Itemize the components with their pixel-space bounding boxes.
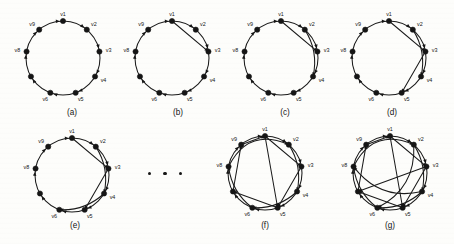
vertex-label-v5: v5	[87, 213, 93, 219]
vertex-v5	[399, 90, 404, 95]
vertex-v1	[60, 18, 65, 23]
vertex-v5	[82, 207, 87, 212]
cycle-rim	[35, 138, 109, 212]
vertex-v4	[92, 74, 97, 79]
arrowhead-rim-v6	[380, 208, 384, 211]
vertex-v8	[242, 49, 247, 54]
vertex-label-v6: v6	[42, 96, 48, 102]
arrowhead-rim-v6	[271, 93, 275, 96]
vertex-v1	[169, 18, 174, 23]
cycle-rim	[228, 136, 302, 210]
vertex-label-v2: v2	[309, 21, 315, 27]
vertex-label-v9: v9	[231, 136, 237, 142]
figure-canvas: v1v2v3v4v5v6v8v9(a)v1v2v3v4v5v6v8v9(b)v1…	[0, 0, 454, 244]
vertex-v2	[302, 27, 307, 32]
arrowhead-rim-v2	[89, 141, 93, 145]
vertex-v4	[101, 191, 106, 196]
cycle-rim	[26, 21, 100, 95]
vertex-label-v4: v4	[427, 77, 433, 83]
vertex-label-v8: v8	[14, 47, 20, 53]
vertex-v8	[351, 164, 356, 169]
vertex-v9	[46, 144, 51, 149]
vertex-v7	[354, 74, 359, 79]
vertex-label-v8: v8	[216, 162, 222, 168]
vertex-v3	[424, 164, 429, 169]
vertex-v9	[363, 27, 368, 32]
vertex-v1	[262, 133, 267, 138]
vertex-label-v3: v3	[115, 164, 121, 170]
arrowhead-rim-v1	[56, 20, 60, 23]
chord-v3-v7	[358, 167, 426, 192]
arrowhead-rim-v5	[297, 88, 301, 91]
arrowhead-rim-v1	[274, 20, 278, 23]
vertex-label-v5: v5	[78, 96, 84, 102]
vertex-v3	[106, 166, 111, 171]
vertex-v2	[410, 27, 415, 32]
vertex-v6	[57, 207, 62, 212]
vertex-label-v9: v9	[138, 21, 144, 27]
arrowhead-rim-v6	[62, 210, 66, 213]
vertex-v3	[299, 164, 304, 169]
vertex-v6	[250, 205, 255, 210]
arrowhead-rim-v6	[53, 93, 57, 96]
arrowhead-rim-v5	[405, 88, 409, 91]
vertex-v2	[411, 142, 416, 147]
vertex-label-v2: v2	[418, 136, 424, 142]
vertex-label-v9: v9	[356, 136, 362, 142]
arrowhead-rim-v6	[162, 93, 166, 96]
ellipsis-between-e-and-f	[148, 172, 182, 175]
outer-arc-v6-v8	[229, 167, 253, 208]
vertex-v5	[400, 205, 405, 210]
vertex-v6	[374, 90, 379, 95]
vertex-v7	[37, 191, 42, 196]
vertex-label-v8: v8	[340, 47, 346, 53]
vertex-label-v2: v2	[417, 21, 423, 27]
vertex-label-v5: v5	[405, 211, 411, 217]
vertex-label-v1: v1	[60, 11, 66, 17]
vertex-v1	[386, 18, 391, 23]
chord-v1-v5	[265, 136, 278, 208]
outer-arc-v2-v4	[289, 145, 299, 192]
vertex-v6	[157, 90, 162, 95]
arrowhead-rim-v1	[382, 20, 386, 23]
arrowhead-rim-v1	[165, 20, 169, 23]
ellipsis-dot	[179, 172, 182, 175]
vertex-label-v9: v9	[29, 21, 35, 27]
ellipsis-dot	[163, 172, 166, 175]
arrowhead-rim-v5	[188, 88, 192, 91]
arrowhead-rim-v5	[88, 205, 92, 208]
vertex-v7	[355, 189, 360, 194]
vertex-v2	[286, 142, 291, 147]
vertex-label-v8: v8	[232, 47, 238, 53]
arrowhead-rim-v6	[255, 208, 259, 211]
vertex-label-v1: v1	[69, 128, 75, 134]
vertex-label-v5: v5	[404, 96, 410, 102]
vertex-v8	[133, 49, 138, 54]
outer-arc-v2-v4	[305, 30, 315, 77]
vertex-label-v1: v1	[386, 11, 392, 17]
vertex-label-v5: v5	[296, 96, 302, 102]
vertex-label-v4: v4	[110, 194, 116, 200]
vertex-label-v9: v9	[38, 138, 44, 144]
vertex-label-v4: v4	[428, 192, 434, 198]
vertex-label-v8: v8	[123, 47, 129, 53]
vertex-v6	[266, 90, 271, 95]
chord-v1-v5	[390, 136, 403, 208]
cycle-rim	[352, 21, 426, 95]
vertex-label-v5: v5	[187, 96, 193, 102]
vertex-v7	[137, 74, 142, 79]
cycle-rim	[244, 21, 318, 95]
arrowhead-rim-v2	[80, 24, 84, 28]
arrowhead-rim-v1	[65, 137, 69, 140]
vertex-v2	[84, 27, 89, 32]
panel-caption-e: (e)	[70, 221, 80, 230]
ellipsis-dot	[148, 172, 151, 175]
vertex-label-v3: v3	[308, 162, 314, 168]
vertex-v6	[375, 205, 380, 210]
vertex-v1	[387, 133, 392, 138]
outer-arc-v2-v4	[96, 147, 106, 194]
vertex-v6	[48, 90, 53, 95]
outer-arc-v2-v4	[413, 30, 423, 77]
vertex-v4	[201, 74, 206, 79]
arrowhead-rim-v2	[298, 24, 302, 28]
